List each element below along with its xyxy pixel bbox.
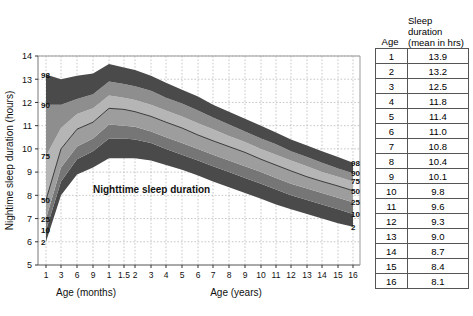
tick-label-y: 7	[27, 214, 32, 224]
percentile-label-right-p50: 50	[351, 187, 360, 196]
table-cell-age: 3	[376, 79, 408, 94]
table-cell-age: 8	[376, 154, 408, 169]
table-header: Age Sleep duration (mean in hrs)	[374, 4, 470, 48]
table-header-duration-line3: (mean in hrs)	[408, 37, 470, 48]
table-cell-age: 16	[376, 274, 408, 289]
tick-label-x: 1	[44, 270, 49, 280]
table-cell-duration: 9.6	[407, 199, 468, 214]
table-cell-age: 11	[376, 199, 408, 214]
percentile-label-left-p90: 90	[41, 101, 50, 110]
table-cell-age: 10	[376, 184, 408, 199]
x-axis-title-years: Age (years)	[210, 287, 262, 298]
table-row: 158.4	[376, 259, 469, 274]
tick-label-y: 13	[22, 75, 32, 85]
table-cell-age: 12	[376, 214, 408, 229]
tick-label-x: 3	[59, 270, 64, 280]
table-row: 710.8	[376, 139, 469, 154]
table-row: 119.6	[376, 199, 469, 214]
table-cell-duration: 8.1	[407, 274, 468, 289]
table-cell-duration: 10.1	[407, 169, 468, 184]
table-row: 139.0	[376, 229, 469, 244]
table-row: 213.2	[376, 64, 469, 79]
table-cell-age: 13	[376, 229, 408, 244]
y-axis-title: Nightime sleep duration (hours)	[4, 91, 15, 231]
table-cell-age: 5	[376, 109, 408, 124]
percentile-label-right-p10: 10	[351, 210, 360, 219]
tick-label-x: 12	[286, 270, 296, 280]
table-header-duration-line1: Sleep	[408, 15, 470, 26]
percentile-label-left-p10: 10	[41, 226, 50, 235]
tick-label-x: 6	[196, 270, 201, 280]
percentile-label-left-p75: 75	[41, 152, 50, 161]
table-row: 129.3	[376, 214, 469, 229]
table-row: 910.1	[376, 169, 469, 184]
tick-label-y: 9	[27, 167, 32, 177]
tick-label-x: 15	[333, 270, 343, 280]
table-body: 113.9213.2312.5411.8511.4611.0710.8810.4…	[375, 48, 469, 289]
percentile-label-right-p25: 25	[351, 198, 360, 207]
x-axis-title-months: Age (months)	[56, 287, 116, 298]
table-cell-age: 7	[376, 139, 408, 154]
percentile-label-right-p98: 98	[351, 159, 360, 168]
table-cell-duration: 9.8	[407, 184, 468, 199]
table-header-age: Age	[374, 36, 406, 48]
table-cell-age: 1	[376, 49, 408, 64]
tick-label-x: 4	[164, 270, 169, 280]
tick-label-y: 5	[27, 260, 32, 270]
table-cell-duration: 8.4	[407, 259, 468, 274]
table-header-duration-line2: duration	[408, 26, 470, 37]
table-cell-age: 14	[376, 244, 408, 259]
percentile-label-left-p50: 50	[41, 196, 50, 205]
chart-annotation: Nighttime sleep duration	[93, 184, 210, 195]
tick-label-y: 10	[22, 144, 32, 154]
chart-panel: 567891011121314136911.523456789101112131…	[0, 0, 370, 316]
table-row: 611.0	[376, 124, 469, 139]
table-header-duration: Sleep duration (mean in hrs)	[406, 15, 470, 48]
percentile-label-left-p2: 2	[41, 238, 46, 247]
table-cell-duration: 12.5	[407, 79, 468, 94]
tick-label-x: 14	[317, 270, 327, 280]
table-row: 109.8	[376, 184, 469, 199]
table-row: 810.4	[376, 154, 469, 169]
tick-label-x: 3	[149, 270, 154, 280]
tick-label-y: 6	[27, 237, 32, 247]
table-cell-age: 9	[376, 169, 408, 184]
tick-label-y: 14	[22, 51, 32, 61]
tick-label-x: 16	[348, 270, 358, 280]
table-row: 511.4	[376, 109, 469, 124]
percentile-label-left-p98: 98	[41, 71, 50, 80]
tick-label-x: 1	[107, 270, 112, 280]
percentile-label-right-p75: 75	[351, 177, 360, 186]
tick-label-y: 11	[23, 121, 32, 131]
table-cell-duration: 9.0	[407, 229, 468, 244]
table-cell-age: 15	[376, 259, 408, 274]
table-cell-age: 6	[376, 124, 408, 139]
percentile-label-left-p25: 25	[41, 215, 50, 224]
table-cell-age: 4	[376, 94, 408, 109]
table-row: 312.5	[376, 79, 469, 94]
tick-label-x: 9	[243, 270, 248, 280]
tick-label-x: 10	[256, 270, 266, 280]
table-row: 113.9	[376, 49, 469, 64]
table-row: 148.7	[376, 244, 469, 259]
tick-label-x: 5	[180, 270, 185, 280]
tick-label-x: 11	[272, 270, 281, 280]
tick-label-x: 1.5	[118, 270, 130, 280]
table-row: 411.8	[376, 94, 469, 109]
tick-label-y: 8	[27, 191, 32, 201]
percentile-area-chart: 567891011121314136911.523456789101112131…	[0, 0, 370, 316]
table-cell-duration: 11.8	[407, 94, 468, 109]
table-cell-duration: 13.9	[407, 49, 468, 64]
sleep-duration-table: Age Sleep duration (mean in hrs) 113.921…	[374, 4, 470, 289]
tick-label-x: 6	[75, 270, 80, 280]
tick-label-x: 7	[211, 270, 216, 280]
tick-label-x: 9	[91, 270, 96, 280]
tick-label-x: 13	[302, 270, 312, 280]
table-cell-duration: 10.8	[407, 139, 468, 154]
table-cell-duration: 8.7	[407, 244, 468, 259]
tick-label-x: 8	[227, 270, 232, 280]
percentile-label-right-p2: 2	[351, 223, 356, 232]
tick-label-y: 12	[22, 98, 32, 108]
table-cell-duration: 11.4	[407, 109, 468, 124]
sleep-duration-figure: 567891011121314136911.523456789101112131…	[0, 0, 473, 316]
